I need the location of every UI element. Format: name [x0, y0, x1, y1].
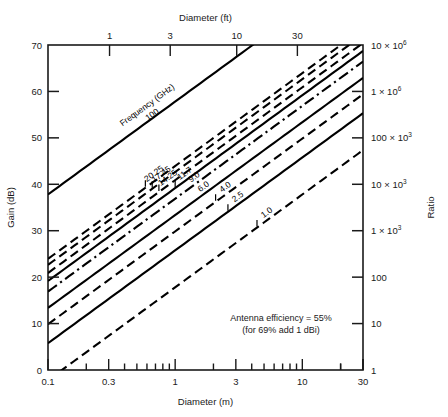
ratio-tick-label-0: 1	[371, 365, 376, 376]
ratio-exponent: 3	[403, 178, 407, 185]
curve-label-1-0: 1.0	[259, 205, 275, 220]
ratio-exponent: 3	[408, 131, 412, 138]
ratio-tick-label-40: 10 × 103	[371, 178, 407, 190]
ratio-mantissa: 100	[371, 272, 387, 283]
ratio-mantissa: 1 × 10	[371, 225, 398, 236]
y-tick-label-50: 50	[31, 132, 42, 143]
curve-20-25	[48, 29, 363, 259]
annotation-line-2: (for 69% add 1 dBi)	[242, 325, 320, 335]
ratio-exponent: 6	[398, 85, 402, 92]
left-axis: 010203040506070Gain (dB)	[5, 40, 59, 376]
y-tick-label-60: 60	[31, 86, 42, 97]
curve-17-45	[48, 35, 363, 265]
bottom-axis: 0.10.3131030Diameter (m)	[41, 359, 368, 407]
annotation-line-1: Antenna efficiency = 55%	[230, 313, 332, 323]
ratio-mantissa: 1 × 10	[371, 86, 398, 97]
x-tick-label-0.1: 0.1	[41, 376, 54, 387]
curve-9-0	[48, 62, 363, 292]
curve-14-25	[48, 43, 363, 273]
ratio-tick-label-10: 10	[371, 318, 382, 329]
ratio-mantissa: 10 × 10	[371, 179, 403, 190]
ratio-tick-label-30: 1 × 103	[371, 224, 402, 236]
top-axis: 131030Diameter (ft)	[107, 12, 303, 56]
x-tick-label-1: 1	[173, 376, 178, 387]
y-tick-label-10: 10	[31, 318, 42, 329]
ratio-mantissa: 10	[371, 318, 382, 329]
x-axis-title: Diameter (m)	[178, 396, 233, 407]
right-axis-title: Ratio	[425, 196, 436, 218]
annotation-block: Antenna efficiency = 55%(for 69% add 1 d…	[230, 313, 332, 335]
right-axis: 1101001 × 10310 × 103100 × 1031 × 10610 …	[352, 39, 436, 376]
y-tick-label-40: 40	[31, 179, 42, 190]
x-tick-label-3: 3	[233, 376, 238, 387]
y-tick-label-70: 70	[31, 40, 42, 51]
ratio-mantissa: 10 × 10	[371, 40, 403, 51]
antenna-gain-chart: 010203040506070Gain (dB)0.10.3131030Diam…	[0, 0, 448, 417]
y-tick-label-0: 0	[37, 365, 42, 376]
curve-6-0	[48, 78, 363, 308]
x-top-tick-label-30: 30	[292, 30, 303, 41]
ratio-tick-label-70: 10 × 106	[371, 39, 407, 51]
ratio-mantissa: 100 × 10	[371, 132, 408, 143]
ratio-exponent: 3	[398, 224, 402, 231]
curve-4-0	[48, 94, 363, 324]
x-top-tick-label-1: 1	[107, 30, 112, 41]
ratio-mantissa: 1	[371, 365, 376, 376]
curve-11-7	[48, 51, 363, 281]
y-tick-label-30: 30	[31, 225, 42, 236]
chart-svg: 010203040506070Gain (dB)0.10.3131030Diam…	[0, 0, 448, 417]
y-tick-label-20: 20	[31, 272, 42, 283]
ratio-tick-label-50: 100 × 103	[371, 131, 412, 143]
ratio-tick-label-20: 100	[371, 272, 387, 283]
x-tick-label-0.3: 0.3	[102, 376, 115, 387]
curve-2-5	[48, 113, 363, 343]
ratio-exponent: 6	[403, 39, 407, 46]
x-tick-label-30: 30	[358, 376, 369, 387]
x-top-tick-label-10: 10	[231, 30, 242, 41]
x-top-axis-title: Diameter (ft)	[179, 12, 232, 23]
ratio-tick-label-60: 1 × 106	[371, 85, 402, 97]
x-top-tick-label-3: 3	[168, 30, 173, 41]
x-tick-label-10: 10	[297, 376, 308, 387]
y-axis-title: Gain (dB)	[5, 187, 16, 228]
